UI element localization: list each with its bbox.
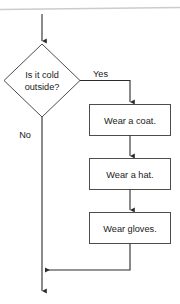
decision-diamond[interactable] xyxy=(4,44,80,117)
connector-merge-back xyxy=(45,244,130,271)
connector-yes-branch xyxy=(80,81,130,103)
process-label-wear-a-coat: Wear a coat. xyxy=(104,116,156,126)
flowchart-canvas: Is it cold outside? Yes No Wear a coat. … xyxy=(0,0,180,304)
edge-label-yes: Yes xyxy=(93,69,108,79)
decision-label-line2: outside? xyxy=(25,82,60,92)
edge-label-no: No xyxy=(19,130,31,140)
process-label-wear-gloves: Wear gloves. xyxy=(103,224,156,234)
process-label-wear-a-hat: Wear a hat. xyxy=(106,170,153,180)
top-divider-rule xyxy=(0,8,180,10)
decision-label-line1: Is it cold xyxy=(25,70,59,80)
flowchart-diagram: Is it cold outside? Yes No Wear a coat. … xyxy=(0,0,180,304)
